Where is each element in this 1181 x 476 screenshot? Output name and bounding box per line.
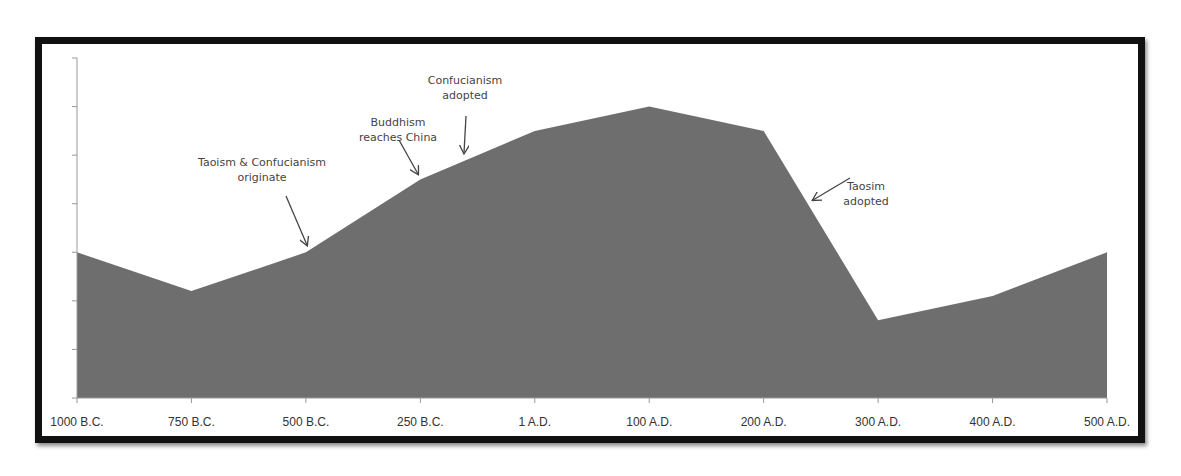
- x-tick-label: 750 B.C.: [168, 415, 215, 429]
- annotation-text: adopted: [442, 89, 488, 102]
- x-tick-label: 500 A.D.: [1084, 415, 1130, 429]
- annotation-arrow-icon: [464, 116, 466, 153]
- x-tick-label: 400 A.D.: [970, 415, 1016, 429]
- x-tick-label: 100 A.D.: [626, 415, 672, 429]
- annotation-text: originate: [237, 171, 286, 184]
- x-tick-label: 500 B.C.: [283, 415, 330, 429]
- annotation-text: Taoism & Confucianism: [197, 156, 326, 169]
- area-fill: [77, 107, 1107, 398]
- annotation-arrow-icon: [286, 196, 307, 245]
- annotation-text: Buddhism: [371, 116, 426, 129]
- area-series: [77, 107, 1107, 398]
- annotation-text: Taosim: [846, 180, 885, 193]
- x-tick-label: 300 A.D.: [855, 415, 901, 429]
- annotation-text: Confucianism: [428, 74, 503, 87]
- area-chart: 1000 B.C.750 B.C.500 B.C.250 B.C.1 A.D.1…: [0, 0, 1181, 476]
- annotation-text: reaches China: [359, 131, 437, 144]
- x-tick-label: 200 A.D.: [741, 415, 787, 429]
- x-tick-label: 1000 B.C.: [50, 415, 103, 429]
- annotation-text: adopted: [843, 195, 889, 208]
- x-tick-label: 250 B.C.: [397, 415, 444, 429]
- x-tick-label: 1 A.D.: [518, 415, 551, 429]
- x-axis-labels: 1000 B.C.750 B.C.500 B.C.250 B.C.1 A.D.1…: [50, 415, 1130, 429]
- annotation-arrow-icon: [399, 140, 418, 174]
